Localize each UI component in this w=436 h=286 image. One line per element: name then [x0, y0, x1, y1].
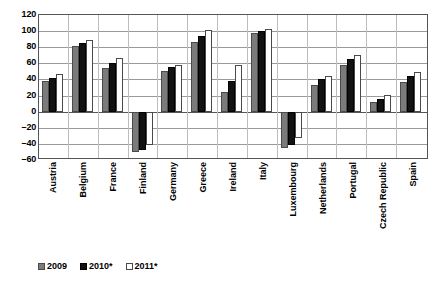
y-tick-label: 120 [2, 10, 36, 19]
bar-group [337, 15, 367, 158]
bar-2011-france [116, 58, 123, 112]
x-axis-tick-label: Czech Republic [379, 162, 388, 229]
bar-2011-netherlands [325, 76, 332, 111]
bar-2011-austria [56, 74, 63, 112]
bar-group [397, 15, 427, 158]
x-axis-tick-label: Ireland [229, 162, 238, 192]
y-tick-label: –40 [2, 138, 36, 147]
x-label-cell: Spain [398, 160, 428, 248]
legend-label: 2011* [135, 262, 158, 271]
x-label-cell: Netherlands [308, 160, 338, 248]
bar-2011-belgium [86, 40, 93, 112]
bar-2011-italy [265, 29, 272, 112]
bars-layer [39, 15, 427, 158]
bar-2009-spain [400, 82, 407, 112]
y-tick-label: 0 [2, 106, 36, 115]
x-axis-tick-label: Germany [169, 162, 178, 201]
x-axis-tick-label: Belgium [79, 162, 88, 198]
bar-2011-czech-republic [384, 95, 391, 112]
x-label-cell: Greece [188, 160, 218, 248]
bar-2009-italy [251, 33, 258, 112]
bar-group [129, 15, 159, 158]
x-axis-tick-label: Finland [139, 162, 148, 194]
bar-group [218, 15, 248, 158]
bar-2010-netherlands [318, 79, 325, 111]
bar-2010-france [109, 63, 116, 111]
x-axis-tick-label: Netherlands [319, 162, 328, 214]
bar-2010-spain [407, 76, 414, 111]
bar-2011-finland [146, 112, 153, 146]
bar-2009-germany [161, 71, 168, 111]
x-label-cell: France [98, 160, 128, 248]
legend-label: 2009 [47, 262, 67, 271]
x-label-cell: Finland [128, 160, 158, 248]
legend-swatch-icon [80, 263, 87, 270]
bar-group [188, 15, 218, 158]
bar-2011-greece [205, 30, 212, 111]
bar-chart: 120100806040200–20–40–60 AustriaBelgiumF… [0, 0, 436, 286]
y-tick-label: 20 [2, 90, 36, 99]
y-tick-label: –60 [2, 155, 36, 164]
bar-group [69, 15, 99, 158]
bar-2009-czech-republic [370, 102, 377, 112]
legend-item[interactable]: 2009 [38, 262, 67, 271]
bar-2009-france [102, 68, 109, 112]
legend-swatch-icon [38, 263, 45, 270]
x-label-cell: Belgium [68, 160, 98, 248]
bar-group [367, 15, 397, 158]
y-tick-label: 100 [2, 26, 36, 35]
y-tick-label: 40 [2, 74, 36, 83]
bar-2011-luxembourg [295, 112, 302, 139]
y-tick-label: 60 [2, 58, 36, 67]
bar-2009-netherlands [311, 85, 318, 112]
x-label-cell: Portugal [338, 160, 368, 248]
chart-legend: 20092010*2011* [38, 262, 158, 271]
bar-2010-luxembourg [288, 112, 295, 146]
y-tick-label: –20 [2, 122, 36, 131]
bar-2011-germany [175, 65, 182, 112]
x-axis-tick-label: Italy [259, 162, 268, 180]
legend-item[interactable]: 2010* [80, 262, 113, 271]
bar-group [158, 15, 188, 158]
y-axis: 120100806040200–20–40–60 [0, 14, 36, 159]
bar-group [308, 15, 338, 158]
x-axis-tick-label: Portugal [349, 162, 358, 199]
bar-group [39, 15, 69, 158]
x-axis-tick-label: Austria [49, 162, 58, 193]
bar-2009-finland [132, 112, 139, 152]
bar-2010-belgium [79, 43, 86, 111]
x-axis-tick-label: Spain [409, 162, 418, 187]
legend-item[interactable]: 2011* [126, 262, 158, 271]
bar-2011-portugal [354, 55, 361, 111]
bar-2009-austria [42, 81, 49, 112]
bar-group [278, 15, 308, 158]
bar-2010-ireland [228, 81, 235, 112]
bar-group [248, 15, 278, 158]
bar-2010-austria [49, 78, 56, 112]
bar-2010-greece [198, 36, 205, 112]
x-axis-tick-label: France [109, 162, 118, 192]
bar-2011-spain [414, 72, 421, 111]
x-axis-tick-label: Greece [199, 162, 208, 193]
x-axis-tick-label: Luxembourg [289, 162, 298, 217]
bar-2009-luxembourg [281, 112, 288, 148]
bar-2010-finland [139, 112, 146, 150]
x-axis-labels: AustriaBelgiumFranceFinlandGermanyGreece… [38, 160, 428, 248]
plot-area [38, 14, 428, 159]
bar-2009-greece [191, 42, 198, 111]
legend-swatch-icon [126, 263, 133, 270]
bar-2009-belgium [72, 46, 79, 112]
x-label-cell: Italy [248, 160, 278, 248]
x-label-cell: Luxembourg [278, 160, 308, 248]
bar-2010-germany [168, 67, 175, 111]
bar-2010-italy [258, 31, 265, 112]
x-label-cell: Ireland [218, 160, 248, 248]
y-tick-label: 80 [2, 42, 36, 51]
bar-2011-ireland [235, 65, 242, 112]
bar-2009-portugal [340, 65, 347, 112]
bar-2010-czech-republic [377, 99, 384, 112]
x-label-cell: Czech Republic [368, 160, 398, 248]
bar-group [99, 15, 129, 158]
legend-label: 2010* [89, 262, 113, 271]
bar-2009-ireland [221, 92, 228, 112]
